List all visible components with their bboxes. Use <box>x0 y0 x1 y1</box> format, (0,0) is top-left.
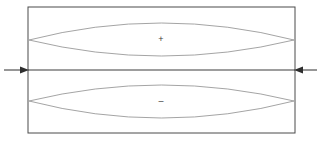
upper-region-plus-sign-label: + <box>158 34 163 44</box>
lower-region-minus-sign-label: – <box>158 96 163 106</box>
figure-canvas: + – <box>0 0 320 152</box>
right-load-arrow <box>294 67 317 74</box>
left-load-arrow <box>4 67 29 74</box>
stress-distribution-diagram: + – <box>0 0 320 152</box>
